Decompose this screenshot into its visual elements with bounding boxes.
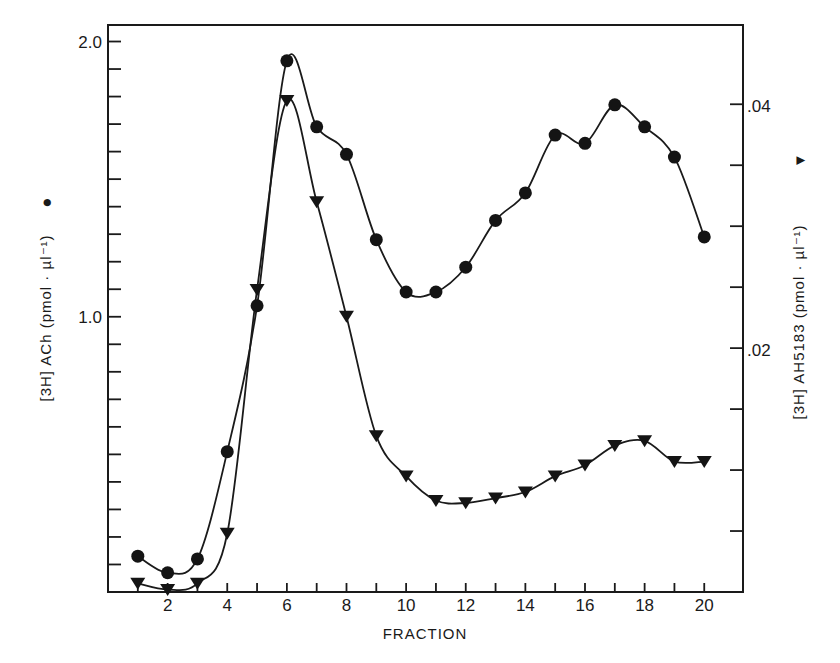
y-right-tick-label: .02 <box>747 341 771 360</box>
x-tick-label: 8 <box>342 596 351 615</box>
x-tick-label: 14 <box>516 596 535 615</box>
ah5183-data-point <box>518 486 533 498</box>
y-axis-right-title: [3H] AH5183 (pmol · µl⁻¹) <box>790 224 807 419</box>
ah5183-data-point <box>607 440 622 452</box>
ach-data-point <box>340 148 353 161</box>
x-tick-label: 18 <box>635 596 654 615</box>
x-tick-label: 20 <box>695 596 714 615</box>
ah5183-curve <box>138 99 704 590</box>
ach-data-point <box>161 566 174 579</box>
ach-data-point <box>429 285 442 298</box>
ach-data-point <box>400 285 413 298</box>
x-axis-title: FRACTION <box>383 625 468 642</box>
y-right-title-text: [3H] AH5183 (pmol · µl⁻¹) <box>790 224 807 419</box>
ach-data-point <box>191 552 204 565</box>
ach-data-point <box>131 550 144 563</box>
x-tick-label: 2 <box>163 596 172 615</box>
ach-data-point <box>698 230 711 243</box>
ah5183-data-point <box>309 196 324 208</box>
chart: 24681012141618201.02.0.02.04 FRACTION [3… <box>0 0 840 663</box>
ach-data-point <box>578 137 591 150</box>
ach-data-point <box>638 120 651 133</box>
ah5183-data-point <box>220 528 235 540</box>
y-axis-right-marker-icon: ▼ <box>791 152 808 168</box>
x-tick-label: 6 <box>282 596 291 615</box>
ach-data-point <box>310 120 323 133</box>
y-left-title-text: [3H] ACh (pmol · µl⁻¹) <box>37 235 54 402</box>
y-right-tick-label: .04 <box>747 97 771 116</box>
y-left-tick-label: 2.0 <box>78 33 102 52</box>
y-axis-left-marker-icon: ● <box>37 196 56 207</box>
ach-data-point <box>280 54 293 67</box>
y-axis-left-title: [3H] ACh (pmol · µl⁻¹) <box>37 235 54 402</box>
x-tick-label: 12 <box>456 596 475 615</box>
ach-data-point <box>519 186 532 199</box>
ah5183-data-point <box>548 471 563 483</box>
ach-data-point <box>370 233 383 246</box>
ah5183-data-point <box>428 495 443 507</box>
x-tick-label: 4 <box>223 596 232 615</box>
ach-data-point <box>668 151 681 164</box>
ach-data-point <box>251 299 264 312</box>
x-tick-label: 16 <box>576 596 595 615</box>
plot-frame <box>108 25 743 592</box>
ah5183-data-point <box>637 435 652 447</box>
y-left-tick-label: 1.0 <box>78 308 102 327</box>
ach-curve <box>138 54 704 574</box>
ach-data-point <box>489 214 502 227</box>
ach-data-point <box>221 445 234 458</box>
ah5183-data-point <box>369 430 384 442</box>
ach-data-point <box>608 98 621 111</box>
ah5183-data-point <box>250 284 265 296</box>
ah5183-data-point <box>130 578 145 590</box>
ach-data-point <box>459 261 472 274</box>
ah5183-data-point <box>339 311 354 323</box>
ah5183-data-point <box>577 460 592 472</box>
ach-data-point <box>549 129 562 142</box>
x-tick-label: 10 <box>397 596 416 615</box>
